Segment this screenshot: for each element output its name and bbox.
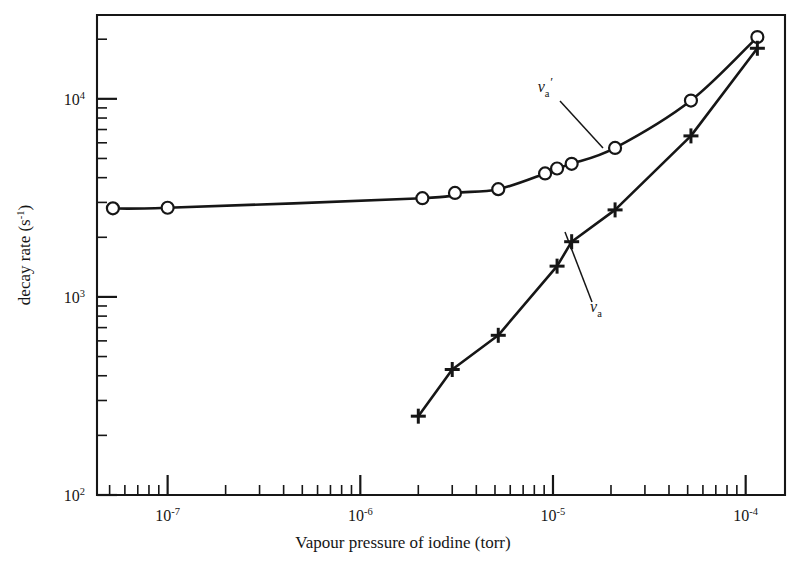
x-axis-title: Vapour pressure of iodine (torr) (295, 533, 510, 552)
data-point-marker-circle (107, 202, 119, 214)
annotation-leaders (560, 101, 603, 302)
data-point-marker-circle (416, 192, 428, 204)
nu-a-label: νa (590, 298, 602, 319)
data-point-marker-circle (162, 202, 174, 214)
series-annotation-labels: νa′νa (538, 74, 603, 319)
axis-tick-label: 10-5 (541, 506, 566, 524)
data-point-marker-circle (609, 142, 621, 154)
x-axis-ticks (110, 475, 746, 495)
nu-a-line (418, 48, 757, 416)
x-axis-tick-labels: 10-710-610-510-4 (155, 506, 759, 524)
series-nu-a-prime (107, 31, 763, 214)
nu-a-prime-markers (107, 31, 763, 214)
y-axis-ticks (97, 39, 117, 495)
data-point-marker-circle (551, 162, 563, 174)
axis-tick-label: 10-4 (733, 506, 758, 524)
data-point-marker-circle (539, 167, 551, 179)
y-axis-title: decay rate (s-1) (15, 205, 34, 305)
data-point-marker-circle (449, 187, 461, 199)
figure-page: 10-710-610-510-4 102103104 Vapour pressu… (0, 0, 806, 570)
axis-tick-label: 104 (64, 90, 86, 108)
axis-tick-label: 103 (64, 288, 85, 306)
nu-a-prime-curve (113, 37, 757, 209)
axis-tick-label: 10-7 (155, 506, 180, 524)
svg-text:decay rate (s-1): decay rate (s-1) (15, 205, 34, 305)
nu-a-markers (411, 41, 765, 424)
data-point-marker-circle (685, 95, 697, 107)
data-point-marker-circle (566, 158, 578, 170)
axis-tick-label: 10-6 (348, 506, 373, 524)
nu-a-prime-leader-line (560, 101, 603, 148)
decay-rate-vs-vapour-pressure-chart: 10-710-610-510-4 102103104 Vapour pressu… (0, 0, 806, 570)
series-nu-a (411, 41, 765, 424)
plot-frame (97, 15, 785, 495)
data-point-marker-circle (492, 183, 504, 195)
y-axis-tick-labels: 102103104 (64, 90, 86, 504)
nu-a-prime-label: νa′ (538, 74, 553, 99)
axis-tick-label: 102 (64, 486, 85, 504)
